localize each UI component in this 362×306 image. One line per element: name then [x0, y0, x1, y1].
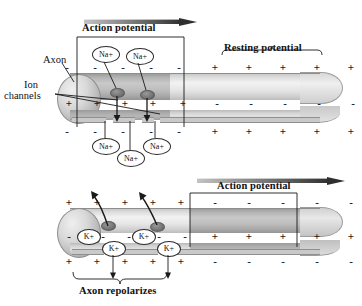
charge-sign: + — [278, 231, 288, 242]
ion-bubble-na-inside: Na+ — [117, 150, 145, 167]
charge-sign: + — [64, 98, 74, 109]
charge-sign: - — [348, 98, 358, 109]
charge-sign: + — [346, 126, 356, 137]
charge-sign: - — [210, 197, 220, 208]
charge-sign: - — [244, 197, 254, 208]
charge-sign: - — [90, 126, 100, 137]
charge-sign: - — [146, 126, 156, 137]
charge-sign: - — [118, 62, 128, 73]
charge-sign: + — [210, 62, 220, 73]
ion-bubble-k-below: K+ — [157, 241, 181, 257]
charge-sign: + — [210, 231, 220, 242]
charge-sign: - — [210, 256, 220, 267]
charge-sign: + — [176, 256, 186, 267]
charge-sign: + — [312, 126, 322, 137]
charge-sign: + — [92, 98, 102, 109]
ion-bubble-k-membrane: K+ — [77, 229, 101, 245]
charge-sign: - — [346, 197, 356, 208]
ion-bubble-k-membrane: K+ — [132, 229, 156, 245]
charge-sign: + — [346, 62, 356, 73]
charge-sign: - — [64, 231, 74, 242]
charge-row-outer-bottom-panel2: + + + + + - - - - - — [58, 256, 353, 268]
resting-potential-label: Resting potential — [224, 42, 302, 53]
action-potential-label-bottom: Action potential — [217, 180, 291, 191]
charge-sign: - — [244, 256, 254, 267]
charge-sign: + — [176, 197, 186, 208]
ion-bubble-k-below: K+ — [102, 241, 126, 257]
charge-sign: + — [120, 256, 130, 267]
charge-sign: - — [174, 126, 184, 137]
axon-outline-top-panel2 — [70, 208, 320, 209]
ion-bubble-na-inside: Na+ — [92, 138, 120, 155]
charge-sign: + — [120, 197, 130, 208]
action-potential-label-top: Action potential — [82, 22, 156, 33]
charge-sign: - — [346, 256, 356, 267]
charge-sign: + — [346, 231, 356, 242]
figure-action-potential: Action potential Resting potential Axon … — [0, 0, 362, 306]
action-potential-arrow-top — [84, 12, 197, 20]
charge-sign: + — [244, 126, 254, 137]
charge-sign: - — [180, 231, 190, 242]
action-potential-arrow-bottom — [197, 171, 345, 179]
charge-sign: + — [64, 256, 74, 267]
charge-sign: + — [64, 197, 74, 208]
charge-sign: + — [278, 126, 288, 137]
membrane-segment — [113, 117, 135, 123]
charge-sign: + — [278, 62, 288, 73]
charge-sign: - — [62, 62, 72, 73]
charge-sign: + — [244, 62, 254, 73]
charge-sign: - — [278, 256, 288, 267]
ion-channels-label-line2: channels — [4, 90, 41, 101]
charge-sign: - — [280, 98, 290, 109]
charge-sign: + — [148, 256, 158, 267]
ion-bubble-na-outside: Na+ — [92, 46, 120, 63]
charge-sign: + — [210, 126, 220, 137]
membrane-segment — [72, 117, 106, 123]
charge-sign: - — [278, 197, 288, 208]
charge-sign: + — [178, 98, 188, 109]
charge-sign: - — [246, 98, 256, 109]
ion-channels-label-line1: Ion — [24, 79, 38, 90]
charge-sign: - — [118, 126, 128, 137]
charge-sign: + — [148, 98, 158, 109]
charge-sign: + — [92, 197, 102, 208]
charge-sign: - — [212, 98, 222, 109]
membrane-segment — [142, 117, 154, 123]
axon-outline-top-panel1 — [70, 73, 320, 74]
charge-sign: - — [90, 62, 100, 73]
charge-sign: - — [62, 126, 72, 137]
charge-sign: + — [244, 231, 254, 242]
charge-sign: + — [148, 197, 158, 208]
charge-sign: - — [312, 256, 322, 267]
ion-bubble-na-outside: Na+ — [126, 48, 154, 65]
charge-sign: - — [174, 62, 184, 73]
charge-sign: + — [92, 256, 102, 267]
membrane-segment — [160, 117, 320, 123]
ion-bubble-na-inside: Na+ — [143, 138, 171, 155]
charge-sign: + — [120, 98, 130, 109]
axon-repolarizes-label: Axon repolarizes — [79, 285, 157, 296]
charge-row-outer-bottom-panel1: - - - - - + + + + + — [58, 126, 353, 138]
